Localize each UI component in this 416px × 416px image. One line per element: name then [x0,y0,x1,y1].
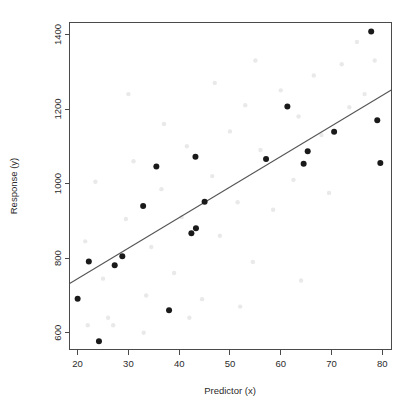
data-point [140,203,146,209]
faint-point [101,276,105,280]
y-axis-ticks: 600800100012001400 [52,24,69,341]
data-point [188,230,194,236]
faint-point [327,191,331,195]
faint-point [228,129,232,133]
faint-point [126,92,130,96]
y-tick-label: 600 [52,325,63,341]
faint-point [362,92,366,96]
data-point [86,259,92,265]
y-tick-label: 1400 [52,24,63,45]
data-point [166,307,172,313]
data-point [202,199,208,205]
faint-point [83,239,87,243]
faint-point [373,58,377,62]
faint-point [258,148,262,152]
data-point [193,225,199,231]
fit-line-layer [70,90,392,284]
faint-point [149,245,153,249]
faint-point [218,234,222,238]
data-point [96,338,102,344]
x-tick-label: 50 [225,358,236,369]
faint-point [299,278,303,282]
x-tick-label: 70 [326,358,337,369]
data-points-layer [75,28,384,344]
faint-point [141,331,145,335]
faint-point [296,114,300,118]
faint-point [291,178,295,182]
faint-point [347,105,351,109]
data-point [153,163,159,169]
faint-point [355,40,359,44]
faint-point [213,81,217,85]
faint-point [340,62,344,66]
data-point [368,28,374,34]
x-tick-label: 80 [377,358,388,369]
axes-layer [70,23,392,350]
faint-point [271,207,275,211]
faint-point [106,316,110,320]
data-point [192,154,198,160]
faint-point [162,122,166,126]
y-axis-title: Response (y) [8,158,19,215]
x-tick-label: 40 [174,358,185,369]
faint-point [253,58,257,62]
x-axis-title: Predictor (x) [204,385,256,396]
data-point [119,253,125,259]
x-axis-ticks: 20304050607080 [72,350,387,369]
faint-point [238,304,242,308]
data-point [377,160,383,166]
scatter-plot-figure: 20304050607080 600800100012001400 Predic… [0,0,416,416]
y-tick-label: 800 [52,250,63,266]
faint-point [124,217,128,221]
faint-point [235,200,239,204]
faint-point [187,316,191,320]
data-point [374,117,380,123]
faint-point [185,144,189,148]
plot-canvas: 20304050607080 600800100012001400 Predic… [0,0,416,416]
faint-point [93,180,97,184]
data-point [305,148,311,154]
faint-point [251,260,255,264]
data-point [284,103,290,109]
faint-point [210,174,214,178]
data-point [112,262,118,268]
y-tick-label: 1200 [52,98,63,119]
data-point [301,161,307,167]
faint-point [312,73,316,77]
regression-line [70,90,392,284]
y-tick-label: 1000 [52,173,63,194]
faint-point [279,88,283,92]
x-tick-label: 60 [275,358,286,369]
faint-point [111,323,115,327]
data-point [331,129,337,135]
x-tick-label: 20 [72,358,83,369]
faint-point [172,271,176,275]
faint-point [243,103,247,107]
data-point [263,156,269,162]
faint-point [144,293,148,297]
faint-point [131,159,135,163]
faint-point [159,187,163,191]
faint-point [86,323,90,327]
faint-point [200,297,204,301]
x-tick-label: 30 [123,358,134,369]
data-point [75,296,81,302]
plot-border [70,23,392,350]
